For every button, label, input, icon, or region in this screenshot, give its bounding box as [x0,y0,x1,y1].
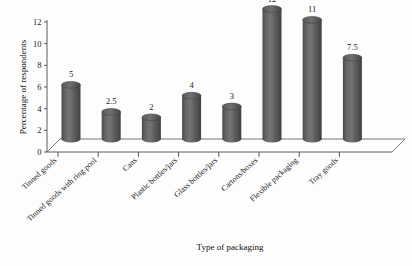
bar[interactable] [142,114,161,142]
y-axis-tick-label: 4 [37,104,42,114]
bar-top-cap [343,54,362,61]
y-axis-tick-label: 12 [33,17,42,27]
bar-value-label: 2.5 [106,96,117,106]
bar-value-label: 5 [69,69,73,79]
bar-top-cap [62,81,81,88]
bar-value-label: 12 [268,0,277,4]
bar-bottom-cap [222,136,241,143]
bar-bottom-cap [263,136,282,143]
bar[interactable] [222,103,241,142]
y-axis-tick-label: 6 [37,82,41,92]
x-axis-category-label: Tinned goods [20,156,58,192]
bar-body [102,112,121,139]
bar-body [182,96,201,139]
bar-value-label: 7.5 [347,42,358,52]
x-axis-category-label: Tray goods [307,156,340,187]
bar-value-label: 11 [308,4,316,14]
bar[interactable] [343,54,362,142]
bar-top-cap [182,92,201,99]
bar-top-cap [222,103,241,110]
x-axis-category-label: Cans [121,156,139,173]
bar-top-cap [303,16,322,23]
bar-body [343,58,362,139]
bar[interactable] [62,81,81,142]
bar-value-label: 4 [189,80,194,90]
bar-body [62,85,81,139]
bar-body [222,107,241,140]
x-axis-category-label: Glass bottles/jars [172,156,219,199]
bar-bottom-cap [142,136,161,143]
chart-canvas: 024681012Percentage of respondents52.524… [0,0,412,266]
y-axis-tick-label: 0 [37,147,41,157]
bar-bottom-cap [303,136,322,143]
bar-value-label: 2 [149,102,153,112]
bar-bottom-cap [62,136,81,143]
bar[interactable] [303,16,322,142]
bar-value-label: 3 [230,91,234,101]
plot-area: 024681012Percentage of respondents52.524… [18,0,405,252]
bar-bottom-cap [343,136,362,143]
bar[interactable] [102,109,121,143]
bar-bottom-cap [102,136,121,143]
x-axis-category-label: Tinned goods with ring pool [25,155,99,223]
bar-top-cap [142,114,161,121]
y-axis-tick-label: 10 [33,39,42,49]
x-axis-category-label: Cartons/boxes [219,156,259,193]
y-axis-tick-label: 8 [37,60,41,70]
y-axis-title: Percentage of respondents [18,39,28,134]
bar-body [303,20,322,139]
x-axis-title: Type of packaging [197,242,264,252]
bar-chart: 024681012Percentage of respondents52.524… [0,0,412,266]
bar-body [263,9,282,139]
bar[interactable] [263,6,282,143]
floor-right-diagonal [392,139,405,152]
bar-top-cap [102,109,121,116]
bar[interactable] [182,92,201,142]
bar-top-cap [263,6,282,13]
y-axis-tick-label: 2 [37,125,41,135]
floor-left-diagonal [47,139,60,152]
bar-bottom-cap [182,136,201,143]
